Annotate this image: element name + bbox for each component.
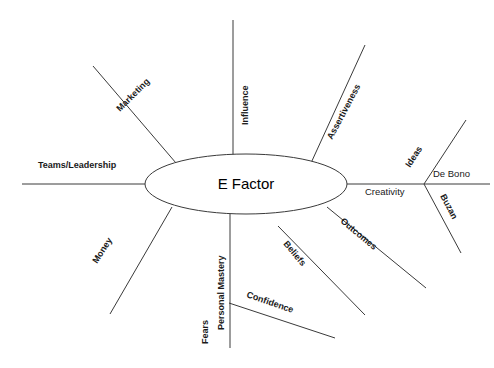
branch-label-de-bono[interactable]: De Bono (433, 168, 470, 179)
branch-label-teams-leadership[interactable]: Teams/Leadership (38, 160, 117, 170)
branch-line-money[interactable] (110, 207, 172, 314)
branch-label-creativity[interactable]: Creativity (365, 186, 405, 197)
branch-label-personal-mastery[interactable]: Personal Mastery (216, 255, 226, 330)
branch-label-money[interactable]: Money (90, 236, 114, 265)
branch-label-fears[interactable]: Fears (200, 320, 210, 344)
branch-label-outcomes[interactable]: Outcomes (339, 216, 379, 252)
branch-label-marketing[interactable]: Marketing (114, 76, 151, 113)
mind-map-svg: E Factor Teams/LeadershipMarketingInflue… (0, 0, 494, 368)
branch-label-influence[interactable]: Influence (240, 85, 250, 125)
mind-map-canvas: E Factor Teams/LeadershipMarketingInflue… (0, 0, 494, 368)
center-node-label: E Factor (218, 175, 275, 192)
branch-line-beliefs[interactable] (278, 226, 365, 315)
branch-label-ideas[interactable]: Ideas (403, 144, 424, 169)
branch-line-assertiveness[interactable] (311, 45, 365, 163)
branch-line-marketing[interactable] (93, 66, 176, 163)
center-node-group[interactable]: E Factor (145, 154, 347, 214)
